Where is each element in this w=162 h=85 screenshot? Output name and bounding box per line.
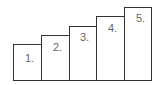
step-3-label: 3. <box>80 32 89 43</box>
step-1: 1. <box>13 44 42 81</box>
step-4: 4. <box>96 16 125 81</box>
step-5: 5. <box>124 7 152 81</box>
step-1-label: 1. <box>25 53 34 64</box>
step-2-label: 2. <box>53 42 62 53</box>
step-5-label: 5. <box>136 13 145 24</box>
step-4-label: 4. <box>108 23 117 34</box>
step-3: 3. <box>69 26 97 81</box>
step-2: 2. <box>41 35 70 81</box>
